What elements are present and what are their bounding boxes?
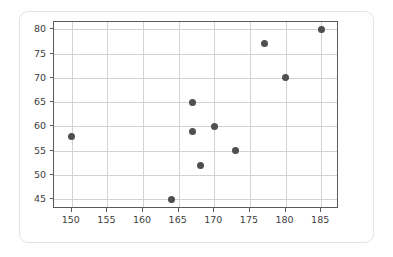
y-axis-tick-label: 55 <box>20 144 46 155</box>
scatter-plot: 150155160165170175180185 455055606570758… <box>20 12 375 244</box>
y-tick-mark <box>50 101 54 102</box>
x-axis-tick-label: 170 <box>204 214 222 225</box>
y-tick-mark <box>50 28 54 29</box>
gridline-horizontal <box>54 78 337 79</box>
y-axis-tick-label: 70 <box>20 71 46 82</box>
gridline-vertical <box>143 22 144 207</box>
x-tick-mark <box>106 208 107 212</box>
x-tick-mark <box>71 208 72 212</box>
data-point <box>211 123 218 130</box>
x-tick-mark <box>213 208 214 212</box>
plot-frame <box>53 21 338 208</box>
data-point <box>261 40 268 47</box>
x-tick-mark <box>142 208 143 212</box>
x-axis-tick-label: 150 <box>62 214 80 225</box>
gridline-vertical <box>179 22 180 207</box>
x-tick-mark <box>178 208 179 212</box>
data-point <box>189 128 196 135</box>
x-tick-mark <box>285 208 286 212</box>
chart-card: 150155160165170175180185 455055606570758… <box>19 11 374 243</box>
gridline-horizontal <box>54 29 337 30</box>
y-axis-tick-label: 60 <box>20 120 46 131</box>
gridline-horizontal <box>54 54 337 55</box>
x-tick-mark <box>249 208 250 212</box>
gridline-horizontal <box>54 199 337 200</box>
gridline-vertical <box>214 22 215 207</box>
data-point <box>168 196 175 203</box>
gridline-vertical <box>286 22 287 207</box>
x-axis-tick-label: 185 <box>311 214 329 225</box>
data-point <box>197 162 204 169</box>
gridline-horizontal <box>54 151 337 152</box>
gridline-vertical <box>72 22 73 207</box>
y-tick-mark <box>50 150 54 151</box>
y-axis-tick-label: 80 <box>20 23 46 34</box>
gridline-vertical <box>107 22 108 207</box>
data-point <box>318 26 325 33</box>
x-axis-tick-label: 155 <box>97 214 115 225</box>
x-axis-tick-label: 175 <box>240 214 258 225</box>
gridline-vertical <box>321 22 322 207</box>
data-point <box>232 147 239 154</box>
x-axis-tick-label: 180 <box>275 214 293 225</box>
x-tick-mark <box>320 208 321 212</box>
x-axis-tick-label: 165 <box>169 214 187 225</box>
y-tick-mark <box>50 174 54 175</box>
y-tick-mark <box>50 125 54 126</box>
gridline-vertical <box>250 22 251 207</box>
y-axis-tick-label: 45 <box>20 193 46 204</box>
gridline-horizontal <box>54 126 337 127</box>
y-axis-tick-label: 65 <box>20 96 46 107</box>
y-axis-tick-label: 50 <box>20 169 46 180</box>
y-tick-mark <box>50 198 54 199</box>
y-tick-mark <box>50 53 54 54</box>
gridline-horizontal <box>54 175 337 176</box>
x-axis-tick-label: 160 <box>133 214 151 225</box>
data-point <box>189 99 196 106</box>
data-point <box>68 133 75 140</box>
y-tick-mark <box>50 77 54 78</box>
data-point <box>282 74 289 81</box>
y-axis-tick-label: 75 <box>20 47 46 58</box>
